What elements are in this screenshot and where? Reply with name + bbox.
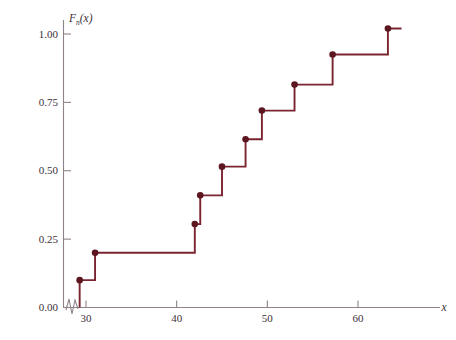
y-axis-title-arg: (x) xyxy=(80,12,93,25)
empirical-cdf-chart: 0.000.250.500.751.00 30405060 Fn(x) x xyxy=(0,0,456,340)
x-axis-title: x xyxy=(440,301,447,313)
data-point-marker xyxy=(291,81,298,88)
data-point-marker xyxy=(76,277,83,284)
y-tick-label: 0.50 xyxy=(39,164,59,176)
data-point-marker xyxy=(219,163,226,170)
data-point-marker xyxy=(92,250,99,257)
chart-container: 0.000.250.500.751.00 30405060 Fn(x) x xyxy=(0,0,456,340)
x-tick-label: 40 xyxy=(171,312,183,324)
data-point-marker xyxy=(197,192,204,199)
x-tick-label: 50 xyxy=(262,312,274,324)
data-point-marker xyxy=(192,221,199,228)
data-point-marker xyxy=(385,25,392,32)
y-tick-label: 0.75 xyxy=(39,96,59,108)
y-tick-label: 0.00 xyxy=(39,301,59,313)
x-tick-label: 30 xyxy=(81,312,93,324)
data-point-marker xyxy=(242,136,249,143)
data-point-marker xyxy=(329,51,336,58)
data-point-marker xyxy=(259,107,266,114)
y-tick-label: 1.00 xyxy=(39,28,59,40)
y-tick-label: 0.25 xyxy=(39,233,59,245)
x-tick-label: 60 xyxy=(353,312,365,324)
